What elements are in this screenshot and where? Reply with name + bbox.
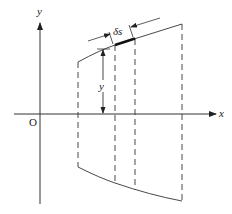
delta-s-dimension-left-arrow	[88, 34, 110, 41]
y-axis-label: y	[36, 5, 42, 17]
height-label: y	[98, 80, 104, 92]
lower-curve	[78, 167, 182, 201]
x-axis-label: x	[218, 107, 224, 119]
delta-s-dimension-right-arrow	[131, 18, 160, 27]
origin-label: O	[29, 116, 37, 128]
delta-s-label: δs	[113, 25, 122, 37]
upper-curve	[78, 24, 182, 62]
arc-element-delta-s	[115, 39, 135, 46]
diagram-canvas: y x O δs y	[0, 0, 232, 214]
